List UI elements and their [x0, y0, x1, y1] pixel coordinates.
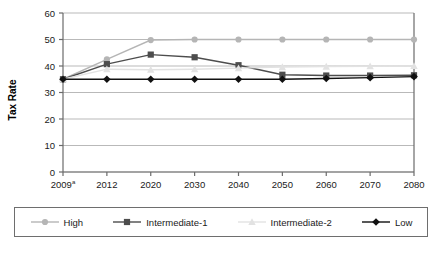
legend-label: High	[64, 217, 84, 228]
series-line	[63, 40, 414, 80]
x-axis-ticks: 2009a20122020203020402050206020702080	[51, 172, 425, 190]
data-point-marker	[235, 36, 241, 42]
y-tick-label: 20	[44, 114, 55, 125]
chart-root: 0102030405060 2009a201220202030204020502…	[0, 0, 442, 254]
legend-item-low[interactable]: Low	[361, 216, 412, 228]
y-axis-title: Tax Rate	[7, 79, 18, 120]
x-tick-label: 2040	[228, 179, 249, 190]
x-tick-label: 2080	[403, 179, 424, 190]
legend-label: Intermediate-1	[146, 217, 207, 228]
legend-swatch-triangle-icon	[237, 216, 267, 228]
legend-item-high[interactable]: High	[30, 216, 84, 228]
x-tick-label: 2050	[272, 179, 293, 190]
y-tick-label: 60	[44, 8, 55, 19]
line-chart-svg: 0102030405060 2009a201220202030204020502…	[0, 0, 442, 200]
data-point-marker	[103, 75, 111, 83]
data-series-layer	[59, 36, 418, 83]
x-tick-label: 2070	[360, 179, 381, 190]
data-point-marker	[411, 36, 417, 42]
data-point-marker	[147, 75, 155, 83]
data-point-marker	[372, 218, 380, 226]
data-point-marker	[191, 75, 199, 83]
legend-swatch-diamond-icon	[361, 216, 391, 228]
legend-item-intermediate-2[interactable]: Intermediate-2	[237, 216, 332, 228]
data-point-marker	[192, 54, 198, 60]
chart-legend: HighIntermediate-1Intermediate-2Low	[14, 207, 428, 237]
legend-label: Low	[395, 217, 412, 228]
y-axis-ticks: 0102030405060	[44, 8, 63, 178]
y-tick-label: 50	[44, 34, 55, 45]
legend-swatch-square-icon	[112, 216, 142, 228]
legend-swatch-circle-icon	[30, 216, 60, 228]
data-point-marker	[192, 36, 198, 42]
data-point-marker	[279, 36, 285, 42]
y-tick-label: 0	[50, 167, 55, 178]
chart-plot-area: 0102030405060 2009a201220202030204020502…	[0, 0, 442, 200]
x-tick-label: 2030	[184, 179, 205, 190]
data-point-marker	[41, 219, 47, 225]
data-point-marker	[235, 75, 243, 83]
legend-label: Intermediate-2	[271, 217, 332, 228]
data-point-marker	[323, 36, 329, 42]
data-point-marker	[367, 36, 373, 42]
y-tick-label: 10	[44, 140, 55, 151]
x-tick-label: 2009a	[51, 179, 76, 190]
x-tick-label: 2020	[140, 179, 161, 190]
x-tick-label: 2060	[316, 179, 337, 190]
legend-item-intermediate-1[interactable]: Intermediate-1	[112, 216, 207, 228]
y-tick-label: 30	[44, 87, 55, 98]
data-point-marker	[124, 219, 130, 225]
series-low	[59, 73, 418, 83]
data-point-marker	[148, 37, 154, 43]
x-tick-label: 2012	[96, 179, 117, 190]
y-tick-label: 40	[44, 61, 55, 72]
data-point-marker	[148, 52, 154, 58]
